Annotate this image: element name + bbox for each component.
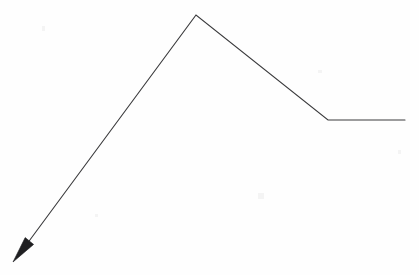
drawing-canvas	[0, 0, 419, 275]
canvas-background	[0, 0, 419, 275]
line-diagram	[0, 0, 419, 275]
